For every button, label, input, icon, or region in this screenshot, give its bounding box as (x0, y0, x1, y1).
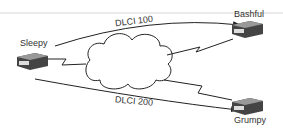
router-icon-sleepy (17, 53, 48, 70)
grumpy-access-link (164, 80, 232, 100)
node-label-sleepy: Sleepy (20, 38, 48, 48)
router-icon-grumpy (232, 98, 263, 115)
router-icon-bashful (232, 21, 263, 38)
frame-relay-cloud (86, 34, 172, 89)
bashful-access-link (167, 39, 233, 55)
node-label-grumpy: Grumpy (234, 115, 266, 125)
sleepy-access-link (47, 59, 86, 65)
node-label-bashful: Bashful (234, 9, 264, 19)
